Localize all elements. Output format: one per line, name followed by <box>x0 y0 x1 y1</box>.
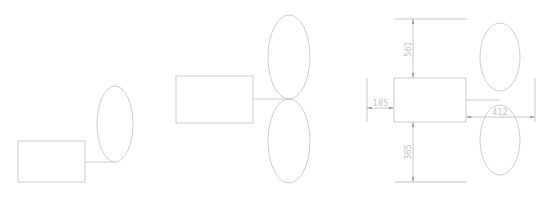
panel-1-ellipse <box>97 86 133 162</box>
panel-3-rectangle <box>394 78 466 122</box>
panel-3-ellipse-top <box>480 23 520 91</box>
panel-2-ellipse-top <box>268 15 310 99</box>
arrow-left-icon <box>466 116 471 118</box>
arrow-up-icon <box>412 122 414 127</box>
arrow-down-icon <box>412 73 414 78</box>
dimension-bottom: 365 <box>404 122 414 182</box>
panel-3: 561 365 185 412 <box>367 19 535 182</box>
panel-2-rectangle <box>176 76 253 123</box>
panel-2 <box>176 15 310 183</box>
dimension-top: 561 <box>404 19 414 78</box>
arrow-up-icon <box>412 19 414 24</box>
arrow-right-icon <box>389 107 394 109</box>
panel-1 <box>18 86 133 182</box>
arrow-down-icon <box>412 177 414 182</box>
dimension-right-label: 412 <box>492 108 507 117</box>
panel-1-rectangle <box>18 141 85 182</box>
dimension-left-label: 185 <box>373 99 388 108</box>
diagram-canvas: 561 365 185 412 <box>0 0 546 197</box>
dimension-right: 412 <box>466 108 535 118</box>
dimension-left: 185 <box>367 99 394 109</box>
panel-2-ellipse-bottom <box>268 99 310 183</box>
arrow-left-icon <box>367 107 372 109</box>
arrow-right-icon <box>530 116 535 118</box>
dimension-top-label: 561 <box>404 41 413 56</box>
dimension-bottom-label: 365 <box>404 144 413 159</box>
